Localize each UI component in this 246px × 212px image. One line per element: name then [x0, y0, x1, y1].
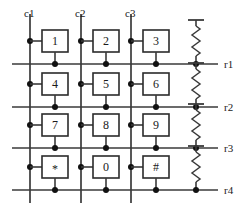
row-junction-c1-r3: [52, 145, 58, 151]
resistor-zigzag-r1: [192, 26, 200, 56]
row-junction-c1-r4: [52, 187, 58, 193]
resistor-row-junction-r4: [193, 187, 199, 193]
row-label-r1: r1: [224, 59, 233, 70]
key-label-6: 6: [153, 78, 159, 90]
pullup-r2[interactable]: [188, 63, 204, 110]
row-junction-c2-r3: [103, 145, 109, 151]
resistor-zigzag-r2: [192, 69, 200, 99]
circuit-canvas: [0, 0, 246, 212]
row-junction-c2-r2: [103, 104, 109, 110]
column-label-c3: c3: [125, 8, 135, 19]
key-label-2: 2: [103, 35, 109, 47]
row-junction-c3-r3: [153, 145, 159, 151]
key-label-hash: #: [153, 161, 159, 173]
resistor-zigzag-r4: [192, 152, 200, 182]
row-junction-c3-r2: [153, 104, 159, 110]
row-label-r4: r4: [224, 185, 233, 196]
row-junction-c1-r1: [52, 61, 58, 67]
key-label-8: 8: [103, 119, 109, 131]
row-label-r3: r3: [224, 143, 233, 154]
row-junction-c2-r1: [103, 61, 109, 67]
key-label-5: 5: [103, 78, 109, 90]
key-label-star: *: [52, 163, 58, 175]
column-label-c1: c1: [24, 8, 34, 19]
key-label-4: 4: [52, 78, 58, 90]
row-junction-c3-r1: [153, 61, 159, 67]
pullup-r4[interactable]: [188, 146, 204, 193]
row-junction-c2-r4: [103, 187, 109, 193]
column-label-c2: c2: [75, 8, 85, 19]
key-label-7: 7: [52, 119, 58, 131]
resistor-zigzag-r3: [192, 110, 200, 140]
key-label-1: 1: [52, 35, 58, 47]
row-junction-c1-r2: [52, 104, 58, 110]
keypad-matrix-diagram: c1c2c3r1r2r3r4123456789*0#: [0, 0, 246, 212]
key-label-3: 3: [153, 35, 159, 47]
key-label-0: 0: [103, 161, 109, 173]
key-label-9: 9: [153, 119, 159, 131]
pullup-r1[interactable]: [188, 20, 204, 67]
row-junction-c3-r4: [153, 187, 159, 193]
pullup-r3[interactable]: [188, 104, 204, 151]
row-label-r2: r2: [224, 102, 233, 113]
